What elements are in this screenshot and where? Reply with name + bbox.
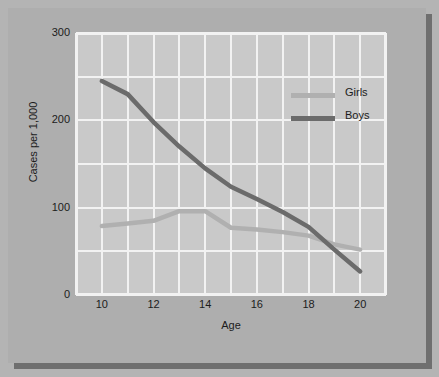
data-series-layer <box>76 33 386 295</box>
y-tick-label: 200 <box>8 114 70 125</box>
chart-card: Cases per 1,000 0100200300 GirlsBoys 101… <box>8 8 426 363</box>
y-axis-tick-labels: 0100200300 <box>8 33 70 295</box>
legend-label: Girls <box>345 86 368 98</box>
x-tick-label: 20 <box>345 299 375 310</box>
x-axis-tick-labels: 101214161820 <box>76 299 386 317</box>
legend-item: Girls <box>291 86 401 109</box>
legend-label: Boys <box>345 109 369 121</box>
legend-item: Boys <box>291 109 401 132</box>
series-line-girls <box>102 211 360 249</box>
x-tick-label: 16 <box>242 299 272 310</box>
x-tick-label: 12 <box>139 299 169 310</box>
y-tick-label: 300 <box>8 27 70 38</box>
y-tick-label: 100 <box>8 202 70 213</box>
x-tick-label: 14 <box>190 299 220 310</box>
legend: GirlsBoys <box>291 86 401 132</box>
x-tick-label: 10 <box>87 299 117 310</box>
x-tick-label: 18 <box>294 299 324 310</box>
plot-area: GirlsBoys <box>76 33 386 295</box>
y-tick-label: 0 <box>8 289 70 300</box>
chart-screenshot: Cases per 1,000 0100200300 GirlsBoys 101… <box>0 0 439 377</box>
legend-swatch-icon <box>291 116 335 121</box>
legend-swatch-icon <box>291 93 335 98</box>
x-axis-title: Age <box>76 319 386 331</box>
